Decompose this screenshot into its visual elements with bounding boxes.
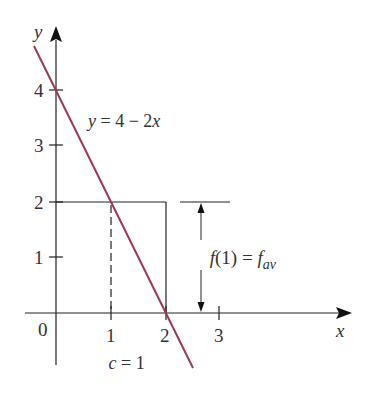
fav-label-sub: av bbox=[263, 257, 277, 272]
x-axis bbox=[25, 307, 352, 319]
y-tick-label-4: 4 bbox=[34, 80, 44, 101]
y-axis bbox=[50, 26, 62, 365]
fav-label: f(1) = fav bbox=[186, 247, 290, 273]
y-axis-arrow-icon bbox=[50, 26, 62, 42]
diagram-canvas: y x 0 1 2 3 1 2 3 4 y = 4 − 2x f(1) = fa… bbox=[0, 0, 377, 396]
c-label: c = 1 bbox=[86, 353, 158, 373]
y-tick-label-1: 1 bbox=[34, 247, 44, 268]
function-line bbox=[34, 46, 193, 368]
x-axis-label: x bbox=[335, 320, 345, 341]
equation-rest: = 4 − 2 bbox=[96, 111, 152, 131]
x-tick-label-2: 2 bbox=[160, 325, 170, 346]
equation-x: x bbox=[151, 111, 160, 131]
equation-y: y bbox=[86, 111, 96, 131]
up-arrow-icon bbox=[198, 203, 205, 213]
y-tick-label-3: 3 bbox=[34, 135, 44, 156]
down-arrow-icon bbox=[198, 302, 205, 312]
origin-label: 0 bbox=[38, 319, 48, 340]
fav-label-arg: (1) = bbox=[215, 247, 257, 269]
y-tick-label-2: 2 bbox=[34, 192, 44, 213]
x-tick-label-3: 3 bbox=[214, 325, 224, 346]
c-label-c: c bbox=[109, 353, 117, 373]
equation-label: y = 4 − 2x bbox=[86, 111, 160, 131]
c-label-rest: = 1 bbox=[117, 353, 145, 373]
x-tick-label-1: 1 bbox=[106, 325, 116, 346]
y-axis-label: y bbox=[32, 21, 43, 42]
